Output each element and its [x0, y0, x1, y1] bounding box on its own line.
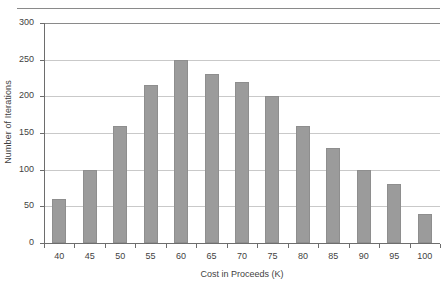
x-axis-title: Cost in Proceeds (K) — [44, 269, 440, 279]
chart-figure: Number of Iterations 050100150200250300 … — [0, 0, 448, 291]
bar — [83, 170, 97, 243]
bar — [265, 96, 279, 243]
x-tick-mark — [166, 244, 167, 248]
x-tick-mark — [44, 244, 45, 248]
x-tick-mark — [135, 244, 136, 248]
bar — [174, 60, 188, 243]
x-tick-label: 100 — [405, 251, 445, 261]
y-tick-label: 0 — [0, 238, 34, 247]
x-tick-mark — [227, 244, 228, 248]
bar — [52, 199, 66, 243]
y-tick-label: 300 — [0, 18, 34, 27]
bar — [418, 214, 432, 243]
bar — [144, 85, 158, 243]
y-tick-mark — [40, 206, 44, 207]
y-axis-line — [44, 23, 45, 244]
top-divider-rule — [17, 8, 440, 9]
x-tick-mark — [105, 244, 106, 248]
bar — [296, 126, 310, 243]
x-tick-mark — [440, 244, 441, 248]
x-tick-mark — [288, 244, 289, 248]
x-tick-mark — [74, 244, 75, 248]
x-tick-mark — [379, 244, 380, 248]
bar — [326, 148, 340, 243]
x-axis-line — [44, 243, 440, 244]
y-tick-label: 250 — [0, 55, 34, 64]
plot-area — [44, 23, 440, 243]
y-tick-mark — [40, 133, 44, 134]
y-tick-mark — [40, 170, 44, 171]
y-tick-mark — [40, 23, 44, 24]
y-tick-mark — [40, 96, 44, 97]
x-tick-mark — [257, 244, 258, 248]
gridline-250 — [44, 60, 440, 61]
bar — [357, 170, 371, 243]
x-tick-mark — [410, 244, 411, 248]
x-tick-mark — [349, 244, 350, 248]
y-tick-label: 200 — [0, 91, 34, 100]
bar — [113, 126, 127, 243]
x-tick-mark — [196, 244, 197, 248]
bar — [205, 74, 219, 243]
bar — [235, 82, 249, 243]
y-tick-label: 50 — [0, 201, 34, 210]
bar — [387, 184, 401, 243]
gridline-300 — [44, 23, 440, 24]
x-tick-mark — [318, 244, 319, 248]
y-tick-label: 100 — [0, 165, 34, 174]
y-tick-mark — [40, 60, 44, 61]
y-tick-label: 150 — [0, 128, 34, 137]
